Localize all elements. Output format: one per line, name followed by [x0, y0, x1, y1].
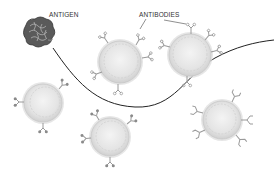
immune-diagram: ANTIGEN ANTIBODIES: [0, 0, 274, 175]
antigen-label: ANTIGEN: [49, 11, 79, 18]
antigen-icon: [24, 17, 55, 47]
antibodies-pointer-right: [164, 20, 186, 24]
cell-left: [14, 78, 70, 133]
cell-bottom-center: [80, 109, 138, 168]
cell-top-center: [90, 32, 153, 95]
antibodies-label: ANTIBODIES: [139, 11, 180, 18]
cell-top-right: [158, 23, 222, 87]
boundary-curve: [53, 40, 274, 107]
antibodies-pointer-left: [140, 19, 146, 29]
cell-right: [190, 89, 253, 146]
